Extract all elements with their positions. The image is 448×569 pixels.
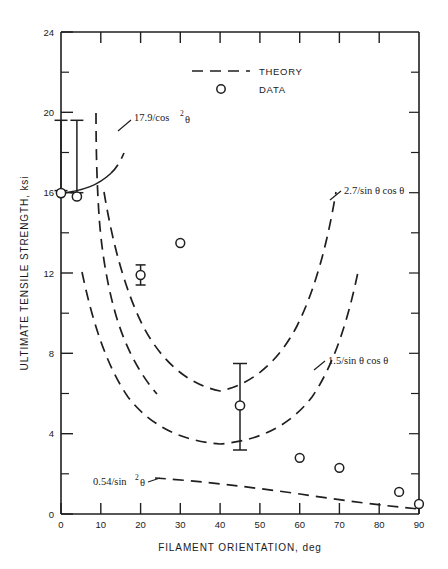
x-tick-label: 20 [135,519,146,530]
data-marker [136,271,145,280]
curve-2-7-sincos [104,192,336,391]
chart-svg: 0 4 8 12 16 20 24 0 10 20 30 40 5 [0,0,448,569]
figure-container: 0 4 8 12 16 20 24 0 10 20 30 40 5 [0,0,448,569]
annotation-17-9-theta: θ [185,114,190,125]
y-tick-label: 12 [43,268,54,279]
y-tick-label: 20 [43,107,54,118]
legend-item-theory: THEORY [192,66,303,77]
y-tick-label: 4 [49,428,54,439]
annotation-17-9-exponent: 2 [180,109,184,118]
x-axis-title: FILAMENT ORIENTATION, deg [158,542,322,553]
data-point-group [55,120,68,197]
annotation-0-54: 0.54/sin 2 θ [93,473,145,488]
leader-1-5 [314,361,325,370]
data-point-group [136,265,146,285]
annotation-0-54-theta: θ [140,477,145,488]
x-tick-label: 80 [374,519,385,530]
x-tick-label: 10 [96,519,107,530]
legend: THEORY DATA [192,66,303,95]
annotation-0-54-exponent: 2 [135,473,139,482]
data-marker [235,401,244,410]
annotation-2-7: 2.7/sin θ cos θ [344,185,404,196]
data-marker [415,500,424,509]
x-tick-label: 90 [414,519,425,530]
x-tick-label: 30 [175,519,186,530]
y-tick-label: 0 [49,509,54,520]
data-point-group [233,364,247,451]
curve-17-9-tail [111,153,124,173]
leader-0-54 [148,478,160,482]
x-axis-tick-labels: 0 10 20 30 40 50 60 70 80 90 [58,519,424,530]
x-tick-label: 70 [334,519,345,530]
y-tick-label: 16 [43,187,54,198]
x-axis-ticks [61,503,419,514]
annotation-0-54-main: 0.54/sin [93,476,127,487]
curve-0-54-sin2 [155,478,419,509]
data-marker [72,192,81,201]
x-tick-label: 0 [58,519,63,530]
data-marker [335,463,344,472]
curve-17-9-head [61,173,111,193]
y-tick-label: 8 [49,348,54,359]
curve-17-9-over-cos2 [61,153,124,193]
legend-label-theory: THEORY [259,66,303,77]
x-tick-label: 60 [294,519,305,530]
x-tick-label: 50 [255,519,266,530]
y-axis-major-ticks [61,32,73,514]
leader-17-9 [118,120,131,131]
curve-steep-dashed [96,113,157,394]
data-marker [395,488,404,497]
legend-label-data: DATA [259,84,286,95]
right-axis-ticks [409,72,419,474]
data-marker [56,189,65,198]
y-axis-tick-labels: 0 4 8 12 16 20 24 [43,27,54,520]
top-axis-ticks [101,32,379,43]
data-marker [176,239,185,248]
annotation-1-5: 1.5/sin θ cos θ [328,355,388,366]
annotation-17-9: 17.9/cos 2 θ [134,109,190,125]
annotation-17-9-main: 17.9/cos [134,112,169,123]
x-tick-label: 40 [215,519,226,530]
data-circle-swatch [217,85,225,93]
y-tick-label: 24 [43,27,54,38]
legend-item-data: DATA [217,84,286,95]
data-marker [295,453,304,462]
y-axis-title: ULTIMATE TENSILE STRENGTH, ksi [19,176,30,371]
curve-1-5-sincos [82,272,358,444]
